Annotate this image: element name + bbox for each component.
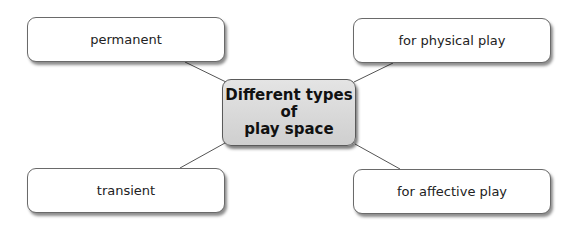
node-physical-play: for physical play <box>353 18 551 63</box>
central-node-label: Different types of play space <box>225 87 352 138</box>
node-label: for physical play <box>399 33 506 48</box>
node-label: permanent <box>90 32 162 47</box>
connector-permanent <box>185 62 226 82</box>
node-label: transient <box>97 183 155 198</box>
connector-affective <box>355 144 400 169</box>
connector-transient <box>180 143 225 168</box>
node-label: for affective play <box>397 184 507 199</box>
node-permanent: permanent <box>27 17 225 62</box>
node-transient: transient <box>27 168 225 213</box>
connector-physical <box>354 63 393 82</box>
central-node: Different types of play space <box>222 79 356 146</box>
node-affective-play: for affective play <box>353 169 551 214</box>
